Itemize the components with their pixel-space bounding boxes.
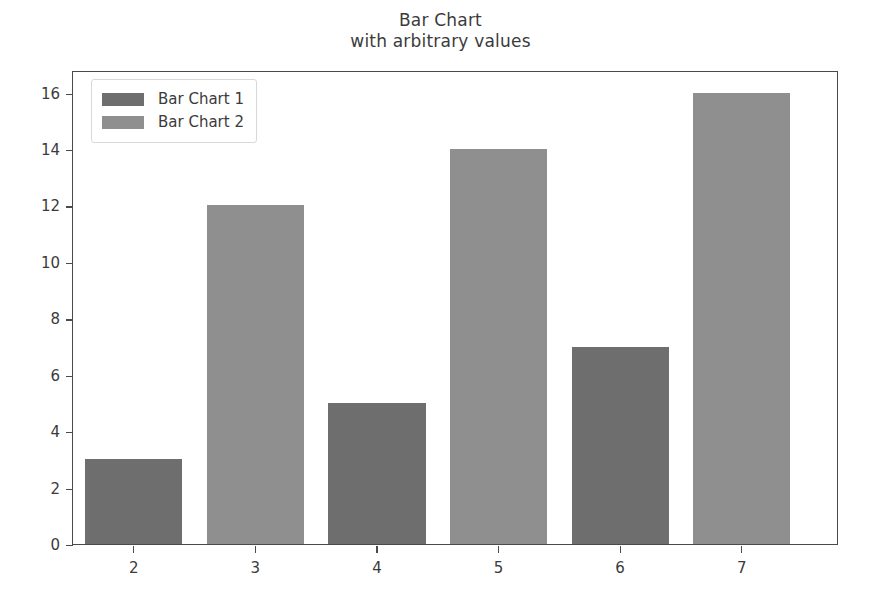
y-tick-label: 6 [20,366,60,386]
bar-7 [693,93,790,544]
x-tick-label: 6 [595,558,645,578]
legend-label: Bar Chart 1 [158,90,244,109]
legend-entry-2: Bar Chart 2 [102,111,244,134]
y-tick-mark [66,432,73,433]
y-tick-label: 14 [20,140,60,160]
legend-swatch-icon [102,93,144,106]
x-tick-label: 4 [352,558,402,578]
bar-4 [328,403,425,544]
x-tick-label: 3 [230,558,280,578]
y-tick-label: 8 [20,309,60,329]
x-tick-mark [498,546,499,553]
y-tick-label: 16 [20,84,60,104]
x-tick-mark [741,546,742,553]
chart-title-line-2: with arbitrary values [0,31,881,52]
y-tick-label: 4 [20,422,60,442]
y-tick-mark [66,94,73,95]
y-tick-mark [66,489,73,490]
y-tick-mark [66,150,73,151]
figure-canvas: Bar Chart with arbitrary values 02468101… [0,0,881,598]
y-tick-mark [66,376,73,377]
legend-entry-1: Bar Chart 1 [102,88,244,111]
chart-title-line-1: Bar Chart [0,10,881,31]
bar-3 [207,205,304,544]
x-tick-label: 5 [474,558,524,578]
x-tick-label: 2 [109,558,159,578]
legend-swatch-icon [102,116,144,129]
legend-label: Bar Chart 2 [158,113,244,132]
bar-5 [450,149,547,544]
bar-2 [85,459,182,544]
y-tick-mark [66,206,73,207]
y-tick-mark [66,319,73,320]
x-tick-mark [255,546,256,553]
legend: Bar Chart 1Bar Chart 2 [91,79,257,143]
y-tick-label: 2 [20,479,60,499]
x-tick-label: 7 [717,558,767,578]
y-tick-label: 0 [20,535,60,555]
plot-area: 0246810121416 234567 Bar Chart 1Bar Char… [72,71,838,545]
x-tick-mark [620,546,621,553]
y-tick-mark [66,545,73,546]
chart-title: Bar Chart with arbitrary values [0,10,881,52]
x-tick-mark [133,546,134,553]
y-tick-label: 12 [20,196,60,216]
y-tick-mark [66,263,73,264]
bar-6 [572,347,669,545]
y-tick-label: 10 [20,253,60,273]
x-tick-mark [376,546,377,553]
